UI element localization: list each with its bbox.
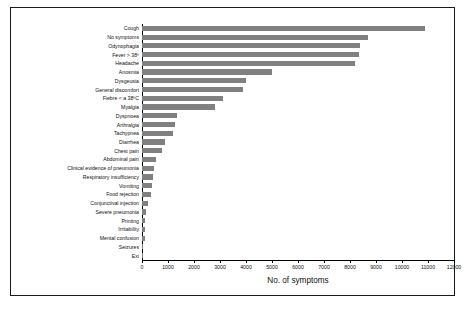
bar	[142, 218, 145, 223]
category-label: Exi	[132, 253, 139, 259]
bar	[142, 61, 355, 66]
bar-row: Clinical evidence of pneumonia	[142, 164, 454, 173]
bar-row: Irritability	[142, 225, 454, 234]
bar-row: Cough	[142, 24, 454, 33]
bar-row: Mental confusion	[142, 234, 454, 243]
category-label: Mental confusion	[100, 235, 139, 241]
category-label: Clinical evidence of pneumonia	[67, 165, 139, 171]
category-label: No symptoms	[107, 34, 139, 40]
bar	[142, 253, 143, 258]
bar-row: Fiebre < a 38ºC	[142, 94, 454, 103]
bar-row: Abdominal pain	[142, 155, 454, 164]
bar-row: Diarrhea	[142, 138, 454, 147]
x-axis-tick	[246, 260, 247, 263]
x-axis-tick-label: 10000	[395, 264, 409, 271]
bar-row: No symptoms	[142, 33, 454, 42]
x-axis-tick	[298, 260, 299, 263]
bar-row: Headache	[142, 59, 454, 68]
bar	[142, 201, 148, 206]
bar	[142, 113, 177, 118]
bar-row: Conjunctival injection	[142, 199, 454, 208]
bar	[142, 157, 156, 162]
bar	[142, 236, 145, 241]
x-axis-tick	[324, 260, 325, 263]
category-label: Food rejection	[106, 191, 139, 197]
bar-row: Vomiting	[142, 181, 454, 190]
x-axis-tick-label: 6000	[292, 264, 304, 271]
category-label: Headache	[115, 60, 139, 66]
x-axis-tick-label: 8000	[344, 264, 356, 271]
bar-row: Dyspnoea	[142, 111, 454, 120]
bar	[142, 122, 175, 127]
bar	[142, 192, 151, 197]
category-label: Odynophagia	[108, 43, 139, 49]
category-label: General discomfort	[95, 87, 139, 93]
x-axis-tick	[142, 260, 143, 263]
bar-row: Odynophagia	[142, 41, 454, 50]
x-axis-tick-label: 1000	[162, 264, 174, 271]
bar-row: Chest pain	[142, 146, 454, 155]
category-label: Fever > 38º	[112, 52, 139, 58]
x-axis-tick-label: 12000	[447, 264, 461, 271]
category-label: Cough	[124, 25, 139, 31]
x-axis-tick	[168, 260, 169, 263]
x-axis-tick	[350, 260, 351, 263]
x-axis-tick-label: 3000	[214, 264, 226, 271]
bar-row: Anosmia	[142, 68, 454, 77]
category-label: Dyspnoea	[116, 113, 139, 119]
bar-row: General discomfort	[142, 85, 454, 94]
x-axis-tick	[220, 260, 221, 263]
x-axis-tick-label: 7000	[318, 264, 330, 271]
bar	[142, 52, 359, 57]
x-axis-tick-label: 2000	[188, 264, 200, 271]
category-label: Conjunctival injection	[90, 200, 139, 206]
x-axis-tick	[428, 260, 429, 263]
bar	[142, 227, 145, 232]
category-label: Dysgeusia	[115, 78, 139, 84]
category-label: Irritability	[118, 226, 139, 232]
bar	[142, 43, 360, 48]
x-axis-tick	[272, 260, 273, 263]
bar	[142, 131, 173, 136]
category-label: Chest pain	[114, 148, 139, 154]
bar	[142, 69, 272, 74]
x-axis-tick	[454, 260, 455, 263]
x-axis-tick-label: 5000	[266, 264, 278, 271]
category-label: Myalgia	[121, 104, 139, 110]
bar-row: Seizures	[142, 242, 454, 251]
bar-row: Arthralgia	[142, 120, 454, 129]
bar-row: Fever > 38º	[142, 50, 454, 59]
category-label: Anosmia	[119, 69, 139, 75]
bar-row: Myalgia	[142, 103, 454, 112]
category-label: Vomiting	[119, 183, 139, 189]
category-label: Abdominal pain	[103, 156, 139, 162]
bar-row: Printing	[142, 216, 454, 225]
bar	[142, 35, 368, 40]
bar	[142, 26, 425, 31]
category-label: Diarrhea	[119, 139, 139, 145]
category-label: Seizures	[119, 244, 139, 250]
category-label: Severe pneumonia	[95, 209, 139, 215]
x-axis-tick-label: 4000	[240, 264, 252, 271]
bar-row: Severe pneumonia	[142, 207, 454, 216]
bar	[142, 244, 143, 249]
x-axis-tick-label: 0	[141, 264, 144, 271]
bar-row: Tachypnea	[142, 129, 454, 138]
bar	[142, 87, 243, 92]
x-axis-tick-label: 11000	[421, 264, 435, 271]
bar-row: Respiratory insufficiency	[142, 172, 454, 181]
bar	[142, 174, 153, 179]
bar	[142, 96, 223, 101]
x-axis-tick-label: 9000	[370, 264, 382, 271]
bar-row: Dysgeusia	[142, 76, 454, 85]
category-label: Fiebre < a 38ºC	[103, 95, 139, 101]
category-label: Respiratory insufficiency	[83, 174, 139, 180]
bar	[142, 78, 246, 83]
bar	[142, 166, 154, 171]
x-axis-tick	[376, 260, 377, 263]
x-axis-title: No. of symptoms	[142, 276, 454, 285]
bar	[142, 139, 165, 144]
screenshot-root: No. of symptoms CoughNo symptomsOdynopha…	[0, 0, 465, 311]
chart-figure-frame: No. of symptoms CoughNo symptomsOdynopha…	[10, 7, 455, 296]
bar	[142, 183, 152, 188]
